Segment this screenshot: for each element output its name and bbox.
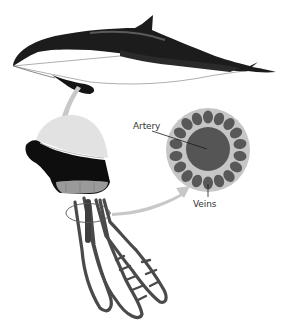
artery-label: Artery (133, 122, 160, 131)
veins-label: Veins (193, 200, 216, 209)
diagram-canvas (0, 0, 285, 329)
vessel-bundle (66, 198, 166, 318)
arrow-to-cross-section (112, 186, 190, 216)
artery-lumen (186, 127, 230, 171)
porpoise-illustration (13, 15, 276, 94)
flipper-slice (25, 115, 110, 194)
cross-section (152, 108, 250, 197)
